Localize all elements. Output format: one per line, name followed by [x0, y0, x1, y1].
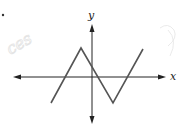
x-axis	[13, 75, 166, 80]
y-axis-top-arrow-icon	[90, 24, 95, 32]
x-axis-right-arrow-icon	[158, 75, 166, 80]
function-graph: ces y x	[0, 0, 191, 135]
x-axis-left-arrow-icon	[13, 75, 21, 80]
bullet-dot	[2, 14, 4, 16]
x-axis-label: x	[170, 70, 177, 83]
watermark-right	[160, 25, 175, 56]
watermark-left: ces	[3, 29, 36, 59]
zigzag-curve	[51, 48, 143, 103]
y-axis-bottom-arrow-icon	[90, 116, 95, 124]
y-axis-label: y	[87, 9, 95, 22]
y-axis	[90, 24, 95, 124]
